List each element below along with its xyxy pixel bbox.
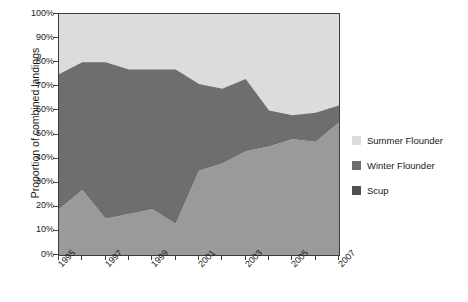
y-axis-tick-label: 50%	[18, 129, 54, 138]
y-axis-tick-label: 30%	[18, 177, 54, 186]
legend-item[interactable]: Winter Flounder	[352, 153, 464, 178]
y-axis-tick-labels: 100%90%80%70%60%50%40%30%20%10%0%	[14, 0, 54, 302]
y-axis-tick-label: 0%	[18, 250, 54, 259]
legend-item[interactable]: Summer Flounder	[352, 128, 464, 153]
legend-swatch-icon	[352, 161, 361, 170]
legend-item-label: Scup	[367, 185, 389, 196]
y-axis-tick-label: 40%	[18, 153, 54, 162]
plot-svg	[59, 14, 339, 255]
x-axis-tick-mark	[128, 255, 129, 260]
stacked-area-chart: Proportion of combined landings 100%90%8…	[0, 0, 468, 302]
legend-swatch-icon	[352, 186, 361, 195]
y-axis-tick-label: 10%	[18, 225, 54, 234]
plot-area	[58, 13, 340, 256]
y-axis-tick-label: 70%	[18, 81, 54, 90]
y-axis-tick-label: 90%	[18, 33, 54, 42]
x-axis-tick-mark	[81, 255, 82, 260]
x-axis-tick-mark	[221, 255, 222, 260]
chart-legend: Summer FlounderWinter FlounderScup	[352, 128, 464, 203]
legend-item-label: Summer Flounder	[367, 135, 443, 146]
legend-item-label: Winter Flounder	[367, 160, 435, 171]
y-axis-tick-label: 80%	[18, 57, 54, 66]
y-axis-tick-label: 100%	[18, 9, 54, 18]
x-axis-tick-mark	[268, 255, 269, 260]
x-axis-tick-mark	[315, 255, 316, 260]
y-axis-tick-label: 20%	[18, 201, 54, 210]
legend-swatch-icon	[352, 136, 361, 145]
x-axis-tick-mark	[175, 255, 176, 260]
legend-item[interactable]: Scup	[352, 178, 464, 203]
y-axis-tick-label: 60%	[18, 105, 54, 114]
